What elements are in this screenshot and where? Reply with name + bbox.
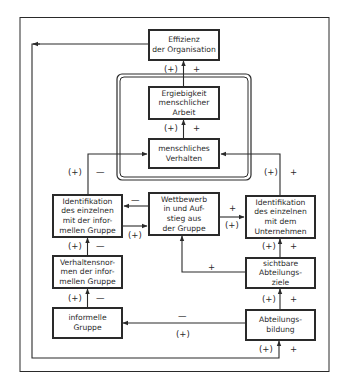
sign-label: + — [290, 167, 297, 177]
sign-label: + — [290, 344, 297, 354]
sign-label: — — [131, 195, 140, 205]
sign-label: (+) — [264, 167, 278, 177]
sign-label: + — [193, 123, 200, 133]
sign-label: + — [229, 203, 236, 213]
node-sichtbare-abteilungsziele: sichtbare Abteilungs- ziele — [245, 257, 316, 289]
node-abteilungsbildung: Abteilungs- bildung — [245, 309, 316, 341]
node-informelle-gruppe: informelle Gruppe — [52, 307, 123, 339]
node-identifikation-unternehmen: Identifikation des einzelnen mit dem Unt… — [245, 195, 316, 239]
sign-label: (+) — [262, 241, 276, 251]
sign-label: + — [290, 294, 297, 304]
sign-label: (+) — [68, 167, 82, 177]
node-verhaltensnormen: Verhaltensnor- men der infor- mellen Gru… — [52, 255, 123, 289]
sign-label: + — [208, 262, 215, 272]
sign-label: (+) — [164, 64, 178, 74]
sign-label: — — [96, 293, 105, 303]
sign-label: (+) — [68, 241, 82, 251]
sign-label: + — [193, 64, 200, 74]
sign-label: — — [178, 311, 187, 321]
sign-label: (+) — [259, 344, 273, 354]
node-ergiebigkeit: Ergiebigkeit menschlicher Arbeit — [148, 86, 220, 120]
node-wettbewerb: Wettbewerb in und Auf- stieg aus der Gru… — [148, 192, 220, 236]
node-menschliches-verhalten: menschliches Verhalten — [148, 138, 220, 169]
node-identifikation-informelle-gruppe: Identifikation des einzelnen mit der inf… — [52, 194, 123, 238]
sign-label: (+) — [262, 294, 276, 304]
sign-label: (+) — [164, 123, 178, 133]
sign-label: — — [96, 167, 105, 177]
sign-label: (+) — [128, 230, 142, 240]
node-effizienz: Effizienz der Organisation — [148, 29, 220, 61]
sign-label: — — [96, 241, 105, 251]
feedback-diagram: Effizienz der Organisation Ergiebigkeit … — [0, 0, 346, 385]
sign-label: (+) — [68, 293, 82, 303]
sign-label: (+) — [225, 220, 239, 230]
sign-label: (+) — [176, 329, 190, 339]
sign-label: + — [290, 241, 297, 251]
